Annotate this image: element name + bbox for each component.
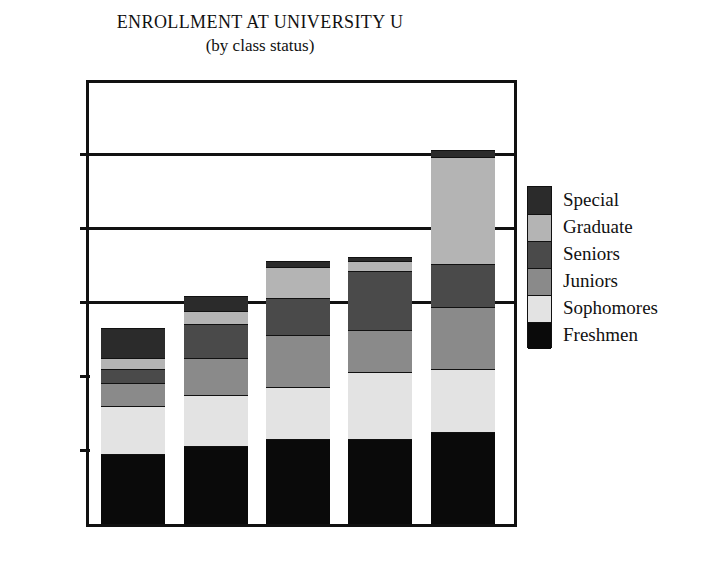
bar-segment-graduate-1995[interactable] xyxy=(431,157,495,264)
legend-label-sophomores: Sophomores xyxy=(563,294,658,321)
bar-segment-seniors-1992[interactable] xyxy=(184,324,248,357)
legend-label-juniors: Juniors xyxy=(563,267,618,294)
bar-1993[interactable] xyxy=(266,83,330,524)
y-axis-tick xyxy=(80,375,90,378)
bar-segment-sophomores-1991[interactable] xyxy=(101,406,165,454)
title-block: ENROLLMENT AT UNIVERSITY U (by class sta… xyxy=(0,10,520,58)
bar-1991[interactable] xyxy=(101,83,165,524)
legend-swatch-seniors xyxy=(528,241,551,268)
bar-segment-special-1995[interactable] xyxy=(431,150,495,157)
bar-segment-graduate-1993[interactable] xyxy=(266,267,330,299)
bar-1992[interactable] xyxy=(184,83,248,524)
y-axis-tick xyxy=(80,449,90,452)
y-axis-tick xyxy=(80,227,90,230)
bar-segment-freshmen-1994[interactable] xyxy=(348,439,412,524)
bar-segment-sophomores-1994[interactable] xyxy=(348,372,412,439)
bar-segment-freshmen-1992[interactable] xyxy=(184,446,248,524)
plot-inner-surface: 1000200030004000500019911992199319941995 xyxy=(89,83,514,524)
legend-swatch-column xyxy=(527,186,552,348)
bar-segment-seniors-1993[interactable] xyxy=(266,298,330,335)
bar-1994[interactable] xyxy=(348,83,412,524)
plot-area: 1000200030004000500019911992199319941995 xyxy=(86,80,517,527)
legend-swatch-juniors xyxy=(528,268,551,295)
legend-swatch-freshmen xyxy=(528,322,551,349)
legend-label-seniors: Seniors xyxy=(563,240,620,267)
bar-segment-seniors-1995[interactable] xyxy=(431,264,495,307)
bar-1995[interactable] xyxy=(431,83,495,524)
bar-segment-sophomores-1995[interactable] xyxy=(431,369,495,432)
bar-segment-seniors-1991[interactable] xyxy=(101,369,165,384)
bar-segment-freshmen-1991[interactable] xyxy=(101,454,165,524)
legend-label-special: Special xyxy=(563,186,619,213)
bar-segment-special-1994[interactable] xyxy=(348,257,412,261)
bar-segment-seniors-1994[interactable] xyxy=(348,271,412,330)
chart-title: ENROLLMENT AT UNIVERSITY U xyxy=(0,10,520,34)
bar-segment-juniors-1994[interactable] xyxy=(348,330,412,373)
bar-segment-juniors-1995[interactable] xyxy=(431,307,495,368)
bar-segment-freshmen-1995[interactable] xyxy=(431,432,495,524)
bar-segment-sophomores-1992[interactable] xyxy=(184,395,248,447)
y-axis-tick xyxy=(80,301,90,304)
y-axis-tick xyxy=(80,153,90,156)
bar-segment-graduate-1994[interactable] xyxy=(348,261,412,270)
bar-segment-sophomores-1993[interactable] xyxy=(266,387,330,439)
bar-segment-special-1991[interactable] xyxy=(101,328,165,358)
bar-segment-juniors-1992[interactable] xyxy=(184,358,248,395)
bar-segment-juniors-1993[interactable] xyxy=(266,335,330,387)
legend-swatch-special xyxy=(528,187,551,214)
legend-label-freshmen: Freshmen xyxy=(563,321,638,348)
bar-segment-special-1992[interactable] xyxy=(184,296,248,311)
bar-segment-freshmen-1993[interactable] xyxy=(266,439,330,524)
bar-segment-graduate-1991[interactable] xyxy=(101,358,165,369)
legend-swatch-sophomores xyxy=(528,295,551,322)
bar-segment-special-1993[interactable] xyxy=(266,261,330,267)
legend-swatch-graduate xyxy=(528,214,551,241)
chart-subtitle: (by class status) xyxy=(0,34,520,58)
bar-segment-graduate-1992[interactable] xyxy=(184,311,248,324)
legend-label-graduate: Graduate xyxy=(563,213,633,240)
bar-segment-juniors-1991[interactable] xyxy=(101,383,165,405)
